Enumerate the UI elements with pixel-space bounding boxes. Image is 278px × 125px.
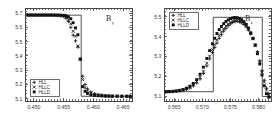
- xtick-label: 0.465: [117, 104, 130, 110]
- svg-text:y: y: [111, 20, 114, 25]
- ytick-label: 5.2: [154, 73, 161, 79]
- xtick-label: 0.460: [87, 104, 100, 110]
- plot-svg-left: 0.4500.4550.4600.4655.15.25.35.45.55.65.…: [0, 0, 139, 125]
- ytick-label: 5.5: [154, 14, 161, 20]
- xtick-label: 0.575: [224, 104, 237, 110]
- xtick-label: 0.455: [57, 104, 70, 110]
- ytick-label: 5.7: [15, 10, 22, 16]
- plot-svg-right: 0.5650.5700.5750.5805.15.25.35.45.5BzHLL…: [139, 0, 278, 125]
- ytick-label: 5.1: [154, 93, 161, 99]
- ytick-label: 5.3: [15, 67, 22, 73]
- ytick-label: 5.4: [154, 34, 161, 40]
- ytick-label: 5.3: [154, 53, 161, 59]
- ytick-label: 5.2: [15, 81, 22, 87]
- plot-panel-by: 0.4500.4550.4600.4655.15.25.35.45.55.65.…: [0, 0, 139, 125]
- ytick-label: 5.6: [15, 24, 22, 30]
- xtick-label: 0.580: [252, 104, 265, 110]
- legend: HLLHLLCHLLD: [30, 79, 59, 96]
- xtick-label: 0.570: [196, 104, 209, 110]
- ytick-label: 5.1: [15, 96, 22, 102]
- ytick-label: 5.4: [15, 53, 22, 59]
- figure-container: 0.4500.4550.4600.4655.15.25.35.45.55.65.…: [0, 0, 278, 125]
- legend: HLLHLLCHLLD: [169, 12, 198, 29]
- legend-label: HLLD: [177, 23, 189, 28]
- plot-panel-bz: 0.5650.5700.5750.5805.15.25.35.45.5BzHLL…: [139, 0, 278, 125]
- series-hll: [165, 20, 271, 96]
- svg-text:z: z: [250, 20, 253, 25]
- legend-label: HLLD: [38, 90, 50, 95]
- series-hllc: [165, 19, 270, 97]
- xtick-label: 0.450: [27, 104, 40, 110]
- ytick-label: 5.5: [15, 39, 22, 45]
- panel-annotation: By: [106, 14, 114, 25]
- xtick-label: 0.565: [168, 104, 181, 110]
